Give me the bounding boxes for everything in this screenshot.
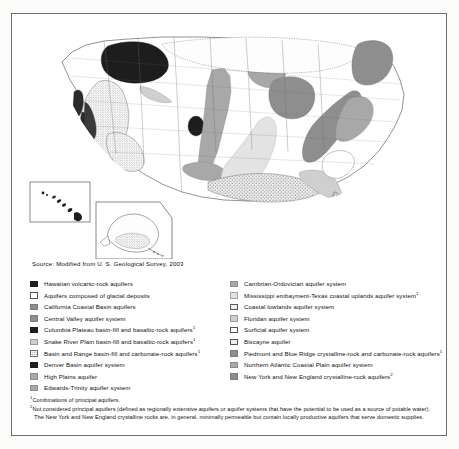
legend-item[interactable]: New York and New England crystalline-roc…	[230, 371, 440, 383]
legend-footnote-marker: 1	[193, 337, 196, 342]
footnotes: 1Combinations of principal aquifers.2Not…	[30, 397, 444, 423]
legend-swatch-white-icon	[30, 292, 38, 298]
source-note: Source: Modified from U. S. Geological S…	[32, 260, 184, 267]
legend-item[interactable]: Hawaiian volcanic-rock aquifers	[30, 278, 230, 290]
legend-item[interactable]: Aquifers composed of glacial deposits	[30, 290, 230, 302]
footnote-text: Combinations of principal aquifers.	[32, 397, 120, 403]
legend-item-label: High Plains aquifer	[44, 371, 97, 383]
legend-footnote-marker: 2	[390, 372, 393, 377]
legend-item[interactable]: Snake River Plain basin-fill and basalti…	[30, 336, 230, 348]
legend-swatch-dark-gray-icon	[230, 373, 238, 379]
legend-swatch-medium-gray-icon	[30, 385, 38, 391]
legend-item-label: Biscayne aquifer	[244, 336, 291, 348]
legend-item-label: Cambrian-Ordovician aquifer system	[244, 278, 346, 290]
legend-item-label: Floridan aquifer system	[244, 313, 310, 325]
legend-item[interactable]: Edwards-Trinity aquifer system	[30, 382, 230, 394]
legend-column-right: Cambrian-Ordovician aquifer systemMissis…	[230, 278, 440, 382]
legend-swatch-stipple-icon	[30, 350, 38, 356]
legend-item-label: Coastal lowlands aquifer system	[244, 301, 334, 313]
legend-item-label: California Coastal Basin aquifers	[44, 301, 136, 313]
figure-page: Source: Modified from U. S. Geological S…	[0, 0, 459, 449]
legend-item[interactable]: Basin and Range basin-fill and carbonate…	[30, 348, 230, 360]
legend-item[interactable]: California Coastal Basin aquifers	[30, 301, 230, 313]
legend-swatch-dark-gray-icon	[230, 350, 238, 356]
legend-item-label: Mississippi embayment-Texas coastal upla…	[244, 290, 419, 302]
legend-item[interactable]: Coastal lowlands aquifer system	[230, 301, 440, 313]
legend-footnote-marker: 1	[440, 349, 443, 354]
legend-item-label: Northern Atlantic Coastal Plain aquifer …	[244, 359, 373, 371]
legend-item-label: Columbia Plateau basin-fill and basaltic…	[44, 324, 195, 336]
footnote: 1Combinations of principal aquifers.	[30, 397, 444, 405]
legend-item[interactable]: Biscayne aquifer	[230, 336, 440, 348]
legend-swatch-medium-gray-icon	[30, 373, 38, 379]
hawaii-inset	[30, 182, 90, 222]
legend-column-left: Hawaiian volcanic-rock aquifersAquifers …	[30, 278, 230, 394]
legend-swatch-medium-gray-icon	[230, 362, 238, 368]
legend-item[interactable]: High Plains aquifer	[30, 371, 230, 383]
legend-swatch-solid-black-icon	[30, 327, 38, 333]
legend-item[interactable]: Central Valley aquifer system	[30, 313, 230, 325]
footnote-text: Not considered principal aquifers (defin…	[32, 406, 430, 412]
legend-item-label: Piedmont and Blue Ridge crystalline-rock…	[244, 348, 442, 360]
legend-item-label: Basin and Range basin-fill and carbonate…	[44, 348, 200, 360]
legend-swatch-medium-gray-icon	[230, 281, 238, 287]
us-aquifer-map[interactable]	[12, 14, 446, 259]
legend-swatch-dots-icon	[230, 304, 238, 310]
legend-item[interactable]: Floridan aquifer system	[230, 313, 440, 325]
alaska-inset	[96, 202, 172, 259]
legend-item-label: Denver Basin aquifer system	[44, 359, 125, 371]
legend-swatch-light-gray-icon	[30, 339, 38, 345]
legend-item[interactable]: Piedmont and Blue Ridge crystalline-rock…	[230, 348, 440, 360]
legend-item[interactable]: Northern Atlantic Coastal Plain aquifer …	[230, 359, 440, 371]
legend-item-label: Surficial aquifer system	[244, 324, 309, 336]
legend-footnote-marker: 1	[193, 325, 196, 330]
legend-swatch-dots-dark-icon	[230, 339, 238, 345]
legend-item-label: Edwards-Trinity aquifer system	[44, 382, 130, 394]
figure-frame: Source: Modified from U. S. Geological S…	[11, 13, 447, 436]
legend-item[interactable]: Surficial aquifer system	[230, 324, 440, 336]
legend-swatch-solid-black-icon	[30, 362, 38, 368]
legend-swatch-light-gray-icon	[230, 315, 238, 321]
footnote-continuation: The New York and New England crystalline…	[30, 414, 444, 422]
legend-item-label: Hawaiian volcanic-rock aquifers	[44, 278, 133, 290]
legend-item[interactable]: Denver Basin aquifer system	[30, 359, 230, 371]
legend-swatch-dark-gray-icon	[30, 315, 38, 321]
legend-item-label: Aquifers composed of glacial deposits	[44, 290, 150, 302]
legend-item-label: Central Valley aquifer system	[44, 313, 126, 325]
legend-item-label: Snake River Plain basin-fill and basalti…	[44, 336, 196, 348]
legend-footnote-marker: 1	[416, 291, 419, 296]
midwest-carbonate-region	[269, 77, 315, 119]
legend-item[interactable]: Columbia Plateau basin-fill and basaltic…	[30, 324, 230, 336]
legend-item[interactable]: Cambrian-Ordovician aquifer system	[230, 278, 440, 290]
legend-swatch-solid-black-icon	[30, 281, 38, 287]
legend-swatch-dark-gray-icon	[30, 304, 38, 310]
legend-swatch-white-icon	[230, 327, 238, 333]
map-container[interactable]	[12, 14, 446, 259]
legend-swatch-very-light-gray-icon	[230, 292, 238, 298]
footnote: 2Not considered principal aquifers (defi…	[30, 406, 444, 414]
legend-item[interactable]: Mississippi embayment-Texas coastal upla…	[230, 290, 440, 302]
legend-footnote-marker: 1	[198, 349, 201, 354]
denver-basin-region	[188, 116, 204, 136]
legend-item-label: New York and New England crystalline-roc…	[244, 371, 393, 383]
